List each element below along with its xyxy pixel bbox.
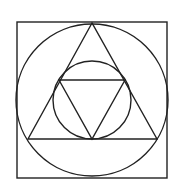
inner-circle <box>53 61 131 139</box>
outer-triangle <box>28 23 157 139</box>
geometric-diagram <box>0 0 179 182</box>
inner-inverted-triangle <box>59 80 125 139</box>
diagram-svg <box>0 0 179 182</box>
outer-circle <box>16 24 168 176</box>
